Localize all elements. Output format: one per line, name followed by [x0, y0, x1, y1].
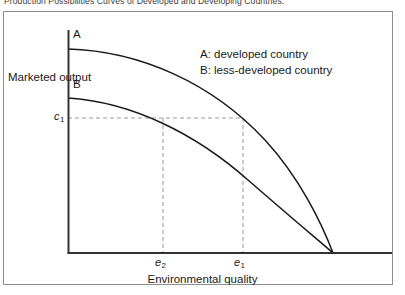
legend-entry-a: A: developed country — [200, 47, 332, 63]
x-axis-tick-e2-base: e — [155, 256, 161, 268]
x-axis-tick-e1: e1 — [234, 256, 245, 268]
y-axis-tick-c1-base: c — [54, 110, 60, 122]
x-axis-tick-e2: e2 — [155, 256, 166, 268]
figure-container: Production Possibilities Curves of Devel… — [0, 0, 405, 295]
chart-plot-area — [0, 0, 405, 295]
y-axis-tick-c1-subscript: 1 — [60, 115, 64, 124]
x-axis-tick-e1-base: e — [234, 256, 240, 268]
chart-legend: A: developed country B: less-developed c… — [200, 47, 332, 78]
x-axis-tick-e2-subscript: 2 — [162, 261, 166, 270]
y-axis-tick-c1: c1 — [42, 110, 64, 122]
legend-entry-b: B: less-developed country — [200, 63, 332, 79]
curve-b-label: B — [73, 78, 81, 90]
curve-a-developed — [68, 49, 333, 253]
y-axis-label: Marketed output — [8, 70, 63, 84]
curve-a-label: A — [73, 28, 81, 40]
x-axis-tick-e1-subscript: 1 — [241, 261, 245, 270]
x-axis-label: Environmental quality — [0, 273, 405, 285]
